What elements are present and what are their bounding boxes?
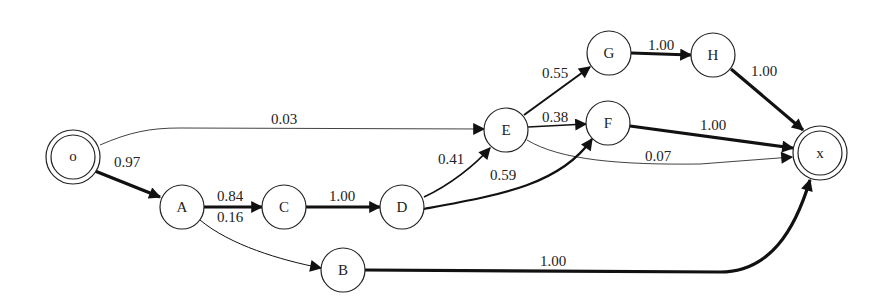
transition-graph: 0.97 0.03 0.84 0.16 1.00 0.41 0.59 0.55 … (0, 0, 889, 301)
node-A[interactable]: A (160, 185, 204, 229)
node-label-E: E (501, 122, 510, 138)
node-F[interactable]: F (586, 101, 630, 145)
edge-label-D-F: 0.59 (490, 167, 516, 183)
edge-label-D-E: 0.41 (438, 151, 464, 167)
edge-label-E-F: 0.38 (542, 109, 568, 125)
edge-label-G-H: 1.00 (648, 37, 674, 53)
edge-label-H-x: 1.00 (751, 63, 777, 79)
edge-A-B (200, 220, 321, 268)
edge-label-B-x: 1.00 (540, 253, 566, 269)
edge-label-A-B: 0.16 (217, 209, 244, 225)
node-H[interactable]: H (691, 33, 735, 77)
edge-label-o-E: 0.03 (271, 111, 297, 127)
node-label-C: C (279, 199, 289, 215)
edge-label-F-x: 1.00 (700, 117, 726, 133)
node-label-x: x (816, 145, 824, 161)
edge-G-H (631, 53, 691, 55)
edge-label-A-C: 0.84 (217, 188, 244, 204)
node-label-D: D (397, 199, 408, 215)
node-label-A: A (177, 199, 188, 215)
node-label-o: o (69, 148, 77, 164)
edge-label-C-D: 1.00 (329, 188, 355, 204)
edge-label-o-A: 0.97 (114, 154, 141, 170)
node-o[interactable]: o (46, 130, 100, 184)
edge-o-A (95, 171, 160, 197)
node-label-F: F (604, 115, 612, 131)
node-B[interactable]: B (321, 248, 365, 292)
edge-label-E-G: 0.55 (542, 65, 568, 81)
edge-labels: 0.97 0.03 0.84 0.16 1.00 0.41 0.59 0.55 … (114, 37, 777, 269)
node-label-H: H (708, 47, 719, 63)
node-x[interactable]: x (793, 126, 847, 180)
edge-o-E (100, 128, 484, 145)
node-G[interactable]: G (587, 31, 631, 75)
node-label-G: G (604, 45, 615, 61)
node-D[interactable]: D (380, 185, 424, 229)
node-label-B: B (338, 262, 348, 278)
edge-label-E-x: 0.07 (645, 148, 672, 164)
node-E[interactable]: E (484, 108, 528, 152)
node-C[interactable]: C (262, 185, 306, 229)
